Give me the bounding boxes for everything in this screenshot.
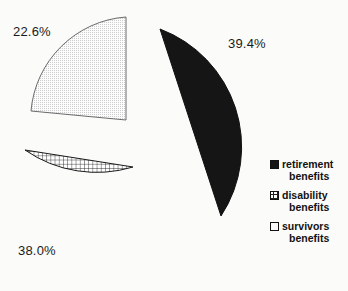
pie-slice-retirement[interactable]: [160, 29, 242, 216]
solid-black-swatch-icon: [270, 160, 279, 169]
dotted-swatch-icon: [270, 222, 279, 231]
pie-slice-disability[interactable]: [25, 150, 133, 172]
chart-legend: retirement benefits disability benefits …: [270, 158, 348, 251]
legend-label-disability: disability benefits: [282, 189, 329, 213]
legend-label-disability-line1: disability: [282, 189, 328, 201]
legend-item-disability[interactable]: disability benefits: [270, 189, 348, 213]
legend-label-survivors: survivors benefits: [282, 220, 329, 244]
legend-label-survivors-line2: benefits: [282, 232, 329, 244]
slice-value-label-disability: 38.0%: [18, 243, 56, 258]
legend-item-survivors[interactable]: survivors benefits: [270, 220, 348, 244]
legend-item-retirement[interactable]: retirement benefits: [270, 158, 348, 182]
slice-value-label-retirement: 39.4%: [228, 36, 266, 51]
legend-label-retirement-line2: benefits: [282, 170, 333, 182]
legend-label-disability-line2: benefits: [282, 201, 329, 213]
slice-value-label-survivors: 22.6%: [13, 24, 51, 39]
crosshatch-swatch-icon: [270, 191, 279, 200]
legend-label-retirement: retirement benefits: [282, 158, 333, 182]
legend-label-retirement-line1: retirement: [282, 158, 333, 170]
legend-label-survivors-line1: survivors: [282, 220, 329, 232]
pie-chart: 22.6% 39.4% 38.0% retirement benefits di…: [0, 0, 348, 291]
